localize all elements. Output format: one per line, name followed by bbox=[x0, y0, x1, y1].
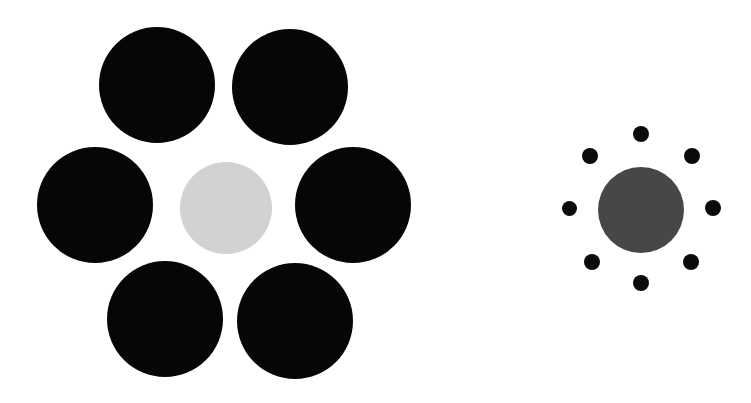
right-inducer-east bbox=[705, 200, 721, 216]
right-inducer-south bbox=[633, 275, 649, 291]
right-inducer-north-east bbox=[684, 148, 700, 164]
right-inducer-north bbox=[633, 126, 649, 142]
right-inducer-south-west bbox=[584, 254, 600, 270]
illusion-figure bbox=[0, 0, 751, 403]
right-inducer-west bbox=[562, 201, 577, 216]
right-circle-group bbox=[0, 0, 751, 403]
right-inducer-south-east bbox=[683, 254, 699, 270]
right-inducer-north-west bbox=[582, 148, 598, 164]
right-target-circle bbox=[598, 167, 684, 253]
